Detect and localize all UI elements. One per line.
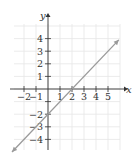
y-tick-label: 2 <box>37 58 43 69</box>
y-tick-label: 3 <box>37 46 43 57</box>
x-tick-label: 4 <box>93 91 99 102</box>
y-tick-label: 4 <box>37 33 43 44</box>
y-axis-label: y <box>39 10 46 21</box>
x-tick-label: 5 <box>105 91 111 102</box>
axes <box>10 13 128 150</box>
x-tick-label: 2 <box>69 91 75 102</box>
y-tick-label: −2 <box>29 109 43 120</box>
x-axis-label: x <box>126 84 132 95</box>
x-tick-label: 3 <box>81 91 87 102</box>
y-tick-label: 1 <box>37 71 43 82</box>
coordinate-plane: −2−1123454321−2−3−4 x y <box>0 0 134 161</box>
y-tick-label: −4 <box>29 134 43 145</box>
x-tick-label: −1 <box>29 91 43 102</box>
y-axis-arrow-icon <box>46 13 51 17</box>
x-tick-label: 1 <box>57 91 63 102</box>
